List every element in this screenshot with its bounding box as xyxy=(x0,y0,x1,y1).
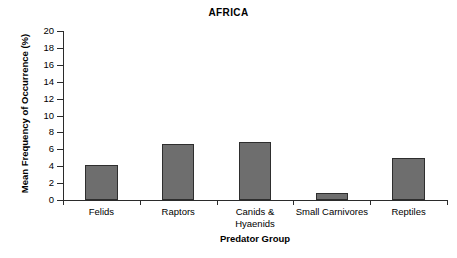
y-tick-label: 18 xyxy=(43,42,54,53)
category-label: Raptors xyxy=(140,206,217,218)
y-axis-line xyxy=(63,31,64,201)
x-axis-label: Predator Group xyxy=(63,233,447,244)
x-tick-mark xyxy=(370,200,371,205)
y-tick-mark xyxy=(57,31,63,32)
bar xyxy=(162,144,194,200)
y-tick-mark xyxy=(57,82,63,83)
y-tick-label: 20 xyxy=(43,25,54,36)
x-tick-mark xyxy=(140,200,141,205)
x-tick-mark xyxy=(447,200,448,205)
y-tick-label: 12 xyxy=(43,93,54,104)
y-tick-mark xyxy=(57,149,63,150)
y-tick-mark xyxy=(57,132,63,133)
bar xyxy=(239,142,271,200)
bar xyxy=(392,158,424,200)
x-tick-mark xyxy=(63,200,64,205)
y-tick-label: 4 xyxy=(49,160,54,171)
y-tick-label: 6 xyxy=(49,143,54,154)
x-tick-mark xyxy=(293,200,294,205)
y-tick-label: 2 xyxy=(49,177,54,188)
y-tick-label: 8 xyxy=(49,126,54,137)
category-label: Reptiles xyxy=(370,206,447,218)
y-tick-mark xyxy=(57,65,63,66)
y-axis-label: Mean Frequency of Occurrence (%) xyxy=(19,24,30,204)
chart-title: AFRICA xyxy=(0,7,457,18)
x-tick-mark xyxy=(217,200,218,205)
bar xyxy=(316,193,348,200)
y-tick-label: 10 xyxy=(43,110,54,121)
y-tick-mark xyxy=(57,99,63,100)
x-axis-line xyxy=(63,200,447,201)
y-tick-mark xyxy=(57,48,63,49)
bar xyxy=(85,165,117,200)
y-tick-mark xyxy=(57,166,63,167)
category-label: Felids xyxy=(63,206,140,218)
y-tick-mark xyxy=(57,183,63,184)
category-label: Canids & Hyaenids xyxy=(217,206,294,229)
y-tick-label: 0 xyxy=(49,194,54,205)
y-tick-label: 14 xyxy=(43,76,54,87)
chart-figure: AFRICA Mean Frequency of Occurrence (%) … xyxy=(0,0,457,258)
y-tick-mark xyxy=(57,116,63,117)
y-tick-label: 16 xyxy=(43,59,54,70)
category-label: Small Carnivores xyxy=(293,206,370,218)
